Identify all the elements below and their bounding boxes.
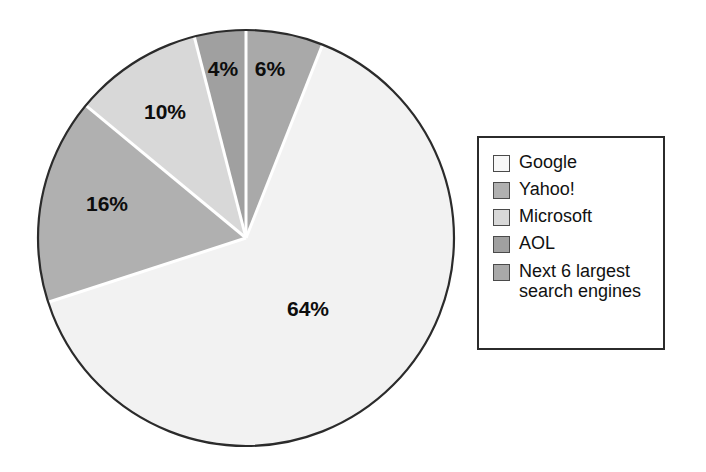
- pie-chart-figure: 64%16%10%4%6% GoogleYahoo!MicrosoftAOLNe…: [0, 0, 706, 472]
- legend-list: GoogleYahoo!MicrosoftAOLNext 6 largest s…: [493, 152, 653, 301]
- legend-item[interactable]: Next 6 largest search engines: [493, 261, 653, 301]
- pie-data-label: 10%: [144, 100, 186, 123]
- pie-data-label: 64%: [287, 297, 329, 320]
- legend-item-label: Microsoft: [519, 206, 592, 226]
- legend-swatch-icon: [493, 236, 510, 253]
- legend-item-label: AOL: [519, 233, 555, 253]
- legend-item-label: Google: [519, 152, 577, 172]
- legend-item[interactable]: AOL: [493, 233, 653, 253]
- legend-item[interactable]: Yahoo!: [493, 179, 653, 199]
- legend-item[interactable]: Google: [493, 152, 653, 172]
- legend-swatch-icon: [493, 155, 510, 172]
- legend-item-label: Yahoo!: [519, 179, 575, 199]
- legend-swatch-icon: [493, 182, 510, 199]
- legend-item[interactable]: Microsoft: [493, 206, 653, 226]
- pie-data-label: 4%: [208, 57, 239, 80]
- legend-item-label: Next 6 largest search engines: [519, 261, 641, 301]
- pie-data-label: 16%: [86, 192, 128, 215]
- pie-chart-area: 64%16%10%4%6%: [0, 0, 470, 472]
- pie-chart-svg: 64%16%10%4%6%: [0, 0, 470, 472]
- legend-swatch-icon: [493, 264, 510, 281]
- legend-swatch-icon: [493, 209, 510, 226]
- legend: GoogleYahoo!MicrosoftAOLNext 6 largest s…: [477, 136, 665, 350]
- pie-data-label: 6%: [255, 57, 286, 80]
